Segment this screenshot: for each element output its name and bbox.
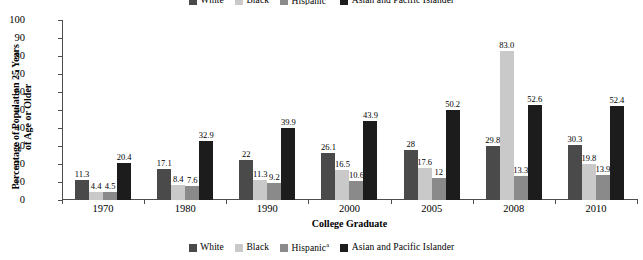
top-legend-label: Hispanica	[292, 0, 330, 5]
bar-black-2008[interactable]: 83.0	[500, 20, 514, 200]
y-axis-tick-label: 0	[0, 195, 25, 206]
bar-asian-and-pacific-islander-2010[interactable]: 52.4	[610, 20, 624, 200]
bar-rect[interactable]	[75, 180, 89, 200]
bar-asian-and-pacific-islander-2008[interactable]: 52.6	[528, 20, 542, 200]
bar-black-1970[interactable]: 4.4	[89, 20, 103, 200]
bar-asian-and-pacific-islander-1980[interactable]: 32.9	[199, 20, 213, 200]
bar-value-label: 30.3	[567, 135, 582, 145]
bar-white-1970[interactable]: 11.3	[75, 20, 89, 200]
y-axis-tick-label: 90	[0, 33, 25, 44]
bar-rect[interactable]	[89, 192, 103, 200]
bar-rect[interactable]	[171, 185, 185, 200]
bar-black-2010[interactable]: 19.8	[582, 20, 596, 200]
bar-white-2008[interactable]: 29.8	[486, 20, 500, 200]
bar-rect[interactable]	[404, 150, 418, 200]
bar-rect[interactable]	[349, 181, 363, 200]
legend-swatch-icon	[340, 0, 348, 5]
bar-value-label: 50.2	[445, 100, 460, 110]
bottom-legend-item-asian-and-pacific-islander: Asian and Pacific Islander	[340, 243, 454, 253]
top-legend-item-white: White	[189, 0, 224, 5]
y-axis-tick-label: 50	[0, 105, 25, 116]
x-axis-tick-label: 2008	[473, 204, 555, 215]
bar-rect[interactable]	[103, 192, 117, 200]
bar-rect[interactable]	[199, 141, 213, 200]
bottom-legend-item-black: Black	[235, 243, 269, 253]
bar-rect[interactable]	[157, 169, 171, 200]
bar-rect[interactable]	[335, 170, 349, 200]
bar-rect[interactable]	[500, 51, 514, 200]
bar-hispanic-2008[interactable]: 13.3	[514, 20, 528, 200]
legend-swatch-icon	[340, 244, 348, 252]
bar-rect[interactable]	[253, 180, 267, 200]
bar-rect[interactable]	[363, 121, 377, 200]
bar-value-label: 13.9	[595, 165, 610, 175]
bar-group-2005: 2817.61250.22005	[391, 20, 473, 200]
bar-value-label: 39.9	[281, 118, 296, 128]
bar-group-bars: 11.34.44.520.4	[62, 20, 144, 200]
bar-white-2010[interactable]: 30.3	[568, 20, 582, 200]
bar-asian-and-pacific-islander-2005[interactable]: 50.2	[446, 20, 460, 200]
bar-white-1980[interactable]: 17.1	[157, 20, 171, 200]
bar-value-label: 11.3	[253, 170, 268, 180]
bar-hispanic-2000[interactable]: 10.6	[349, 20, 363, 200]
bar-rect[interactable]	[446, 110, 460, 200]
bar-asian-and-pacific-islander-2000[interactable]: 43.9	[363, 20, 377, 200]
bar-black-1980[interactable]: 8.4	[171, 20, 185, 200]
bar-rect[interactable]	[267, 183, 281, 200]
plot-area: 0102030405060708090100 11.34.44.520.4197…	[62, 20, 637, 200]
bar-black-2000[interactable]: 16.5	[335, 20, 349, 200]
bar-black-2005[interactable]: 17.6	[418, 20, 432, 200]
bar-value-label: 52.4	[609, 96, 624, 106]
bar-group-bars: 2211.39.239.9	[226, 20, 308, 200]
bar-rect[interactable]	[568, 145, 582, 200]
legend-swatch-icon	[235, 244, 243, 252]
bar-rect[interactable]	[432, 178, 446, 200]
bar-value-label: 26.1	[321, 143, 336, 153]
bar-asian-and-pacific-islander-1990[interactable]: 39.9	[281, 20, 295, 200]
legend-swatch-icon	[235, 0, 243, 5]
bar-value-label: 4.5	[105, 182, 116, 192]
x-axis-tick	[473, 199, 474, 204]
bar-value-label: 32.9	[199, 131, 214, 141]
bar-rect[interactable]	[117, 163, 131, 200]
bar-rect[interactable]	[321, 153, 335, 200]
bar-rect[interactable]	[281, 128, 295, 200]
bar-rect[interactable]	[582, 164, 596, 200]
legend-swatch-icon	[189, 244, 197, 252]
bar-hispanic-2010[interactable]: 13.9	[596, 20, 610, 200]
x-axis-tick-label: 2005	[391, 204, 473, 215]
bar-hispanic-1970[interactable]: 4.5	[103, 20, 117, 200]
bar-asian-and-pacific-islander-1970[interactable]: 20.4	[117, 20, 131, 200]
bar-group-1980: 17.18.47.632.91980	[144, 20, 226, 200]
bar-black-1990[interactable]: 11.3	[253, 20, 267, 200]
bar-white-2000[interactable]: 26.1	[321, 20, 335, 200]
y-axis-tick-label: 30	[0, 141, 25, 152]
bar-rect[interactable]	[418, 168, 432, 200]
bar-rect[interactable]	[185, 186, 199, 200]
bar-rect[interactable]	[610, 106, 624, 200]
legend-label-superscript: a	[326, 0, 329, 1]
top-legend-label: Asian and Pacific Islander	[352, 0, 455, 5]
bar-value-label: 4.4	[91, 182, 102, 192]
x-axis-tick	[637, 199, 638, 204]
bottom-legend-label: Asian and Pacific Islander	[352, 243, 455, 253]
bar-value-label: 11.3	[75, 170, 90, 180]
bar-value-label: 22	[242, 150, 251, 160]
bar-rect[interactable]	[596, 175, 610, 200]
bar-hispanic-1990[interactable]: 9.2	[267, 20, 281, 200]
x-axis-tick	[226, 199, 227, 204]
bar-rect[interactable]	[528, 105, 542, 200]
bar-group-bars: 17.18.47.632.9	[144, 20, 226, 200]
bar-rect[interactable]	[486, 146, 500, 200]
bar-white-2005[interactable]: 28	[404, 20, 418, 200]
bar-group-2010: 30.319.813.952.42010	[555, 20, 637, 200]
legend-swatch-icon	[280, 0, 288, 5]
bar-white-1990[interactable]: 22	[239, 20, 253, 200]
bar-rect[interactable]	[514, 176, 528, 200]
bar-rect[interactable]	[239, 160, 253, 200]
bar-hispanic-1980[interactable]: 7.6	[185, 20, 199, 200]
bar-value-label: 43.9	[363, 111, 378, 121]
x-axis-tick-label: 2010	[555, 204, 637, 215]
bar-hispanic-2005[interactable]: 12	[432, 20, 446, 200]
y-axis-tick-label: 80	[0, 51, 25, 62]
